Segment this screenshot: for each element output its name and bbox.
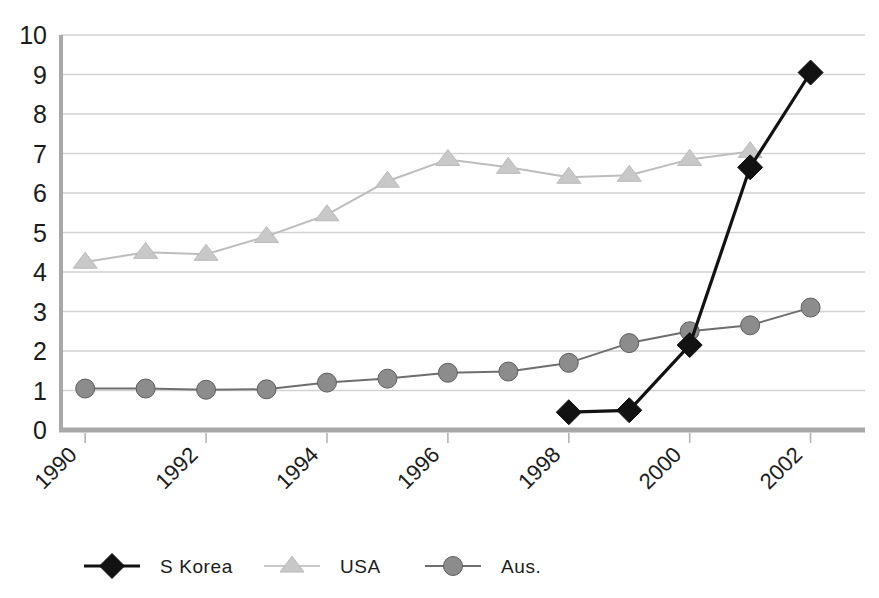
data-point-marker (620, 334, 639, 353)
data-point-marker (317, 373, 336, 392)
chart-canvas: 012345678910 199019921994199619982000200… (0, 0, 879, 598)
y-tick-label: 6 (33, 179, 47, 207)
legend-label: Aus. (501, 556, 541, 577)
data-point-marker (438, 363, 457, 382)
data-point-marker (559, 353, 578, 372)
y-tick-label: 9 (33, 61, 47, 89)
y-tick-label: 5 (33, 219, 47, 247)
data-point-marker (76, 379, 95, 398)
chart-background (0, 0, 879, 598)
y-tick-label: 1 (33, 377, 47, 405)
y-tick-label: 10 (19, 21, 47, 49)
data-point-marker (741, 316, 760, 335)
y-tick-label: 2 (33, 337, 47, 365)
y-tick-label: 3 (33, 298, 47, 326)
data-point-marker (257, 380, 276, 399)
data-point-marker (499, 362, 518, 381)
line-chart: 012345678910 199019921994199619982000200… (0, 0, 879, 598)
legend-label: USA (340, 556, 381, 577)
data-point-marker (378, 369, 397, 388)
y-tick-label: 0 (33, 416, 47, 444)
circle-icon (444, 557, 463, 576)
data-point-marker (197, 380, 216, 399)
data-point-marker (801, 298, 820, 317)
legend-label: S Korea (160, 556, 233, 577)
y-tick-label: 8 (33, 100, 47, 128)
y-tick-label: 7 (33, 140, 47, 168)
data-point-marker (136, 379, 155, 398)
y-tick-label: 4 (33, 258, 47, 286)
